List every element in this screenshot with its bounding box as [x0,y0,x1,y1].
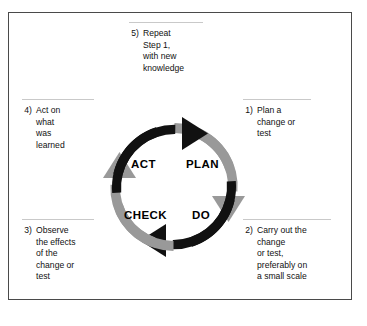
note-number: 4) [22,105,32,117]
note-rule [22,219,94,220]
note-number: 5) [129,28,139,40]
note-step-5: 5) Repeat Step 1, with new knowledge [129,22,207,74]
center-label-check: CHECK [124,209,167,221]
note-step-1: 1) Plan a change or test [243,99,315,140]
note-rule [243,219,331,220]
center-label-act: ACT [131,158,156,170]
note-number: 3) [22,225,32,237]
note-rule [243,99,311,100]
center-label-do: DO [192,209,210,221]
note-text: Act on what was learned [36,105,98,151]
note-number: 2) [243,225,253,237]
note-step-4: 4) Act on what was learned [22,99,98,151]
arrow-do [140,181,236,262]
note-rule [129,22,203,23]
note-rule [22,99,94,100]
note-text: Plan a change or test [257,105,315,140]
pdca-cycle-ring [100,112,248,262]
note-text: Repeat Step 1, with new knowledge [143,28,207,74]
pdca-figure: ACT PLAN CHECK DO 5) Repeat Step 1, with… [0,0,367,326]
note-text: Observe the effects of the change or tes… [36,225,98,283]
note-number: 1) [243,105,253,117]
note-step-3: 3) Observe the effects of the change or … [22,219,98,283]
center-label-plan: PLAN [186,158,219,170]
note-step-2: 2) Carry out the change or test, prefera… [243,219,335,283]
arrow-act [112,112,208,193]
note-text: Carry out the change or test, preferably… [257,225,335,283]
